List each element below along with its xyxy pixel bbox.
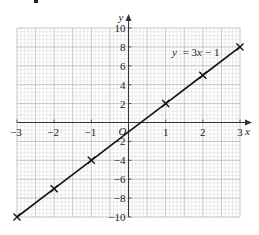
eq-y: y <box>171 46 177 58</box>
y-tick-label: −8 <box>114 192 126 204</box>
x-tick-label: 1 <box>163 126 169 138</box>
x-tick-label: −2 <box>47 126 59 138</box>
y-tick-label: 10 <box>115 22 127 34</box>
y-axis-label: y <box>118 11 124 23</box>
line-chart: −3−2−1123108642−2−4−6−8−10xyO y = 3x− 1 <box>0 0 259 235</box>
y-tick-label: −4 <box>114 154 126 166</box>
y-tick-label: 8 <box>120 41 126 53</box>
x-axis-label: x <box>244 125 250 137</box>
x-tick-label: −3 <box>10 126 22 138</box>
eq-rest: = 3 <box>183 46 198 58</box>
equation-label: y = 3x− 1 <box>171 46 219 58</box>
x-tick-label: −1 <box>84 126 96 138</box>
eq-x: x <box>196 46 202 58</box>
y-tick-label: −6 <box>114 173 126 185</box>
y-tick-label: 6 <box>120 60 126 72</box>
x-tick-label: 3 <box>237 126 243 138</box>
y-tick-label: 4 <box>120 79 126 91</box>
eq-const: − 1 <box>205 46 219 58</box>
y-tick-label: −10 <box>108 211 126 223</box>
y-tick-label: 2 <box>120 98 126 110</box>
x-tick-label: 2 <box>200 126 206 138</box>
y-axis-arrow-icon <box>126 14 132 21</box>
